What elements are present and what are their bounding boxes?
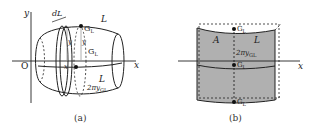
circumference-label: 2πyGL bbox=[86, 84, 108, 93]
x-axis-label-b: x bbox=[298, 61, 303, 71]
dL-label: dL bbox=[52, 9, 62, 18]
unrolled-surface bbox=[197, 28, 275, 103]
L-label-b: L bbox=[253, 35, 260, 45]
y-right-label: y bbox=[81, 38, 87, 46]
G-top-label: GL bbox=[84, 24, 94, 34]
origin-label: O bbox=[21, 61, 28, 71]
y-axis-label: y bbox=[23, 8, 30, 18]
L-top-label: L bbox=[100, 14, 107, 24]
caption-b: (b) bbox=[229, 113, 242, 123]
box-corner-top bbox=[275, 24, 281, 30]
A-label: A bbox=[212, 35, 220, 45]
G-mid-label: GL bbox=[88, 47, 98, 57]
center-curve bbox=[38, 63, 122, 67]
point-G-top-b bbox=[232, 27, 236, 31]
barrel-top-curve bbox=[40, 27, 118, 38]
figure-b: A L GL GL GL 2πyGL x (b) bbox=[178, 24, 303, 123]
point-G-center bbox=[74, 65, 78, 69]
figure-a: y x O dL L L GL GL y y x 2πyGL (a) bbox=[12, 8, 139, 123]
G-top-label-b: GL bbox=[237, 25, 247, 34]
left-end-back bbox=[40, 38, 45, 82]
x-mark-label: x bbox=[64, 63, 68, 71]
caption-a: (a) bbox=[74, 113, 86, 123]
L-bottom-label: L bbox=[98, 74, 105, 84]
x-axis-label: x bbox=[134, 60, 139, 70]
point-G-top bbox=[79, 24, 83, 28]
point-G-mid-b bbox=[232, 63, 236, 67]
left-end-front bbox=[36, 38, 41, 82]
y-left-label: y bbox=[67, 38, 73, 46]
diagram-canvas: y x O dL L L GL GL y y x 2πyGL (a) A L G… bbox=[0, 0, 316, 136]
point-G-bot-b bbox=[232, 100, 236, 104]
